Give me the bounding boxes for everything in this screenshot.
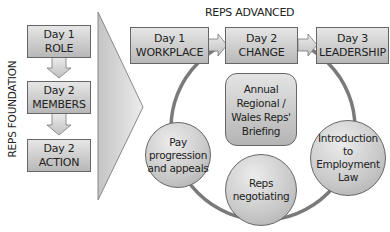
module-line: Introduction bbox=[316, 132, 380, 145]
step-title: LEADERSHIP bbox=[319, 46, 386, 60]
step-title: MEMBERS bbox=[32, 98, 86, 112]
module-line: Pay bbox=[148, 136, 209, 149]
step-title: WORKPLACE bbox=[136, 46, 204, 60]
step-day: Day 2 bbox=[43, 84, 74, 98]
step-day: Day 3 bbox=[337, 32, 368, 46]
step-day: Day 2 bbox=[246, 32, 277, 46]
module-line: Reps bbox=[233, 177, 290, 190]
module-employment-law: Introduction to Employment Law bbox=[310, 120, 386, 196]
briefing-line: Regional / bbox=[231, 96, 290, 110]
module-line: Employment bbox=[316, 158, 380, 171]
step-day: Day 2 bbox=[43, 142, 74, 156]
module-line: negotiating bbox=[233, 190, 290, 203]
module-line: Law bbox=[316, 171, 380, 184]
step-title: ACTION bbox=[39, 156, 80, 170]
step-day: Day 1 bbox=[154, 32, 185, 46]
step-day: Day 1 bbox=[43, 28, 74, 42]
annual-briefing-box: Annual Regional / Wales Reps' Briefing bbox=[225, 73, 297, 146]
foundation-step-role: Day 1 ROLE bbox=[27, 25, 91, 58]
module-reps-negotiating: Reps negotiating bbox=[225, 154, 297, 226]
advanced-step-leadership: Day 3 LEADERSHIP bbox=[316, 27, 389, 64]
down-arrow-1 bbox=[47, 57, 71, 78]
module-line: to bbox=[316, 145, 380, 158]
foundation-step-action: Day 2 ACTION bbox=[27, 139, 91, 172]
advanced-step-change: Day 2 CHANGE bbox=[225, 27, 298, 64]
foundation-step-members: Day 2 MEMBERS bbox=[27, 81, 91, 114]
briefing-line: Wales Reps' bbox=[231, 110, 290, 124]
module-line: progression bbox=[148, 149, 209, 162]
foundation-label: REPS FOUNDATION bbox=[6, 59, 18, 159]
module-pay-progression: Pay progression and appeals bbox=[145, 122, 211, 188]
briefing-line: Annual bbox=[231, 82, 290, 96]
advanced-label: REPS ADVANCED bbox=[205, 6, 294, 19]
down-arrow-2 bbox=[47, 113, 71, 135]
step-title: CHANGE bbox=[239, 46, 285, 60]
briefing-line: Briefing bbox=[231, 124, 290, 138]
advanced-step-workplace: Day 1 WORKPLACE bbox=[130, 27, 209, 64]
step-title: ROLE bbox=[45, 42, 74, 56]
module-line: and appeals bbox=[148, 162, 209, 175]
